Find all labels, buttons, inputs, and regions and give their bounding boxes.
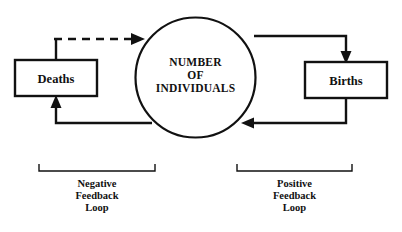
negative-loop-label-line-2: Feedback [75, 190, 118, 201]
node-births: Births [305, 62, 387, 98]
births-label: Births [329, 74, 362, 88]
deaths-label: Deaths [38, 72, 75, 86]
population-to-deaths-line [56, 106, 152, 123]
positive-loop-label-line-2: Feedback [273, 190, 316, 201]
population-label-line-2: OF [187, 69, 203, 81]
population-to-births-line [254, 36, 346, 54]
bracket-negative-loop: Negative Feedback Loop [39, 164, 155, 213]
negative-loop-label-line-1: Negative [77, 178, 116, 189]
population-label-line-1: NUMBER [169, 56, 222, 68]
population-label-line-3: INDIVIDUALS [156, 82, 236, 94]
births-to-population-arrowhead [241, 118, 254, 129]
positive-loop-bracket-shape [237, 164, 352, 171]
connector-population-to-births [254, 36, 352, 64]
connector-births-to-population [241, 98, 346, 129]
negative-loop-label-line-3: Loop [85, 202, 109, 213]
positive-loop-label-line-1: Positive [277, 178, 312, 189]
negative-loop-bracket-shape [39, 164, 155, 171]
bracket-positive-loop: Positive Feedback Loop [237, 164, 352, 213]
connector-population-to-deaths [51, 95, 153, 123]
node-deaths: Deaths [15, 60, 97, 96]
deaths-to-population-arrowhead [131, 33, 145, 45]
node-population: NUMBER OF INDIVIDUALS [136, 18, 256, 138]
positive-loop-label-line-3: Loop [283, 202, 307, 213]
feedback-loop-diagram: NUMBER OF INDIVIDUALS Deaths Births Nega… [0, 0, 402, 232]
diagram-canvas: NUMBER OF INDIVIDUALS Deaths Births Nega… [0, 0, 402, 232]
connector-deaths-to-population [54, 33, 145, 60]
births-to-population-line [252, 98, 346, 123]
